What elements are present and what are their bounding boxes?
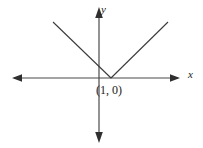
- x-axis-right-arrow-icon: [170, 74, 180, 82]
- absolute-value-left-branch: [53, 22, 111, 78]
- y-axis-label: y: [101, 4, 106, 15]
- x-axis-label: x: [188, 69, 193, 80]
- vertex-coordinate-label: (1, 0): [96, 84, 122, 96]
- graph-canvas: [0, 0, 203, 148]
- absolute-value-right-branch: [111, 22, 168, 78]
- x-axis-left-arrow-icon: [12, 74, 22, 82]
- y-axis-down-arrow-icon: [95, 132, 103, 143]
- coordinate-plane-figure: y x (1, 0): [0, 0, 203, 148]
